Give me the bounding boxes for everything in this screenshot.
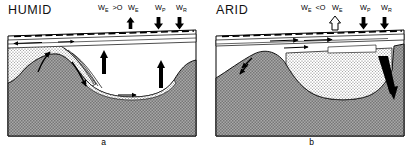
evaporation-arrow-humid bbox=[127, 17, 135, 29]
panel-b-graphic bbox=[208, 0, 415, 153]
evaporation-arrow-arid bbox=[330, 16, 341, 30]
panel-humid: HUMID WE >O WE WP WR bbox=[0, 0, 207, 153]
panel-arid: ARID WE <O WE WP WR bbox=[208, 0, 415, 153]
precipitation-arrow-humid bbox=[154, 17, 163, 30]
panel-a-graphic bbox=[0, 0, 207, 153]
panel-caption-b: b bbox=[208, 137, 415, 147]
band-flow-arrow-humid bbox=[58, 42, 74, 43]
panel-caption-a: a bbox=[0, 137, 207, 147]
figure-root: HUMID WE >O WE WP WR bbox=[0, 0, 415, 153]
precipitation-arrow-arid bbox=[359, 17, 368, 30]
runoff-arrow-humid bbox=[175, 17, 184, 30]
runoff-arrow-arid bbox=[380, 17, 389, 30]
